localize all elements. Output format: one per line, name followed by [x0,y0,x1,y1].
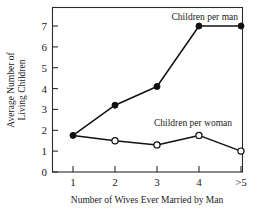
y-axis-title-line1: Average Number of [6,52,16,128]
data-point [154,84,160,90]
data-point [196,132,202,138]
x-tick-label-2: 2 [112,176,118,188]
x-tick-label-3: 3 [154,176,160,188]
y-tick-label-7: 7 [42,20,48,32]
y-tick-label-0: 0 [42,166,48,178]
y-tick-label-2: 2 [42,124,48,136]
data-point [238,148,244,154]
y-axis-title: Average Number of Living Children [6,52,27,128]
data-point [112,138,118,144]
y-tick-label-3: 3 [42,103,48,115]
x-tick-label-5: >5 [235,176,247,188]
chart-background [0,0,258,212]
y-tick-label-4: 4 [42,83,48,95]
y-tick-label-5: 5 [42,62,48,74]
data-point [154,142,160,148]
y-axis-title-line2: Living Children [17,59,27,120]
x-tick-label-1: 1 [70,176,76,188]
annotation-children-per-woman: Children per woman [154,118,232,128]
y-tick-label-1: 1 [42,145,48,157]
data-point [196,23,202,29]
data-point [238,23,244,29]
chart-container: 0 1 2 3 4 5 6 7 1 2 3 4 >5 [0,0,258,212]
data-point [112,102,118,108]
x-axis-title: Number of Wives Ever Married by Man [71,195,224,205]
annotation-children-per-man: Children per man [172,12,239,22]
data-point [70,132,76,138]
line-chart: 0 1 2 3 4 5 6 7 1 2 3 4 >5 [0,0,258,212]
y-tick-label-6: 6 [42,41,48,53]
x-tick-label-4: 4 [196,176,202,188]
